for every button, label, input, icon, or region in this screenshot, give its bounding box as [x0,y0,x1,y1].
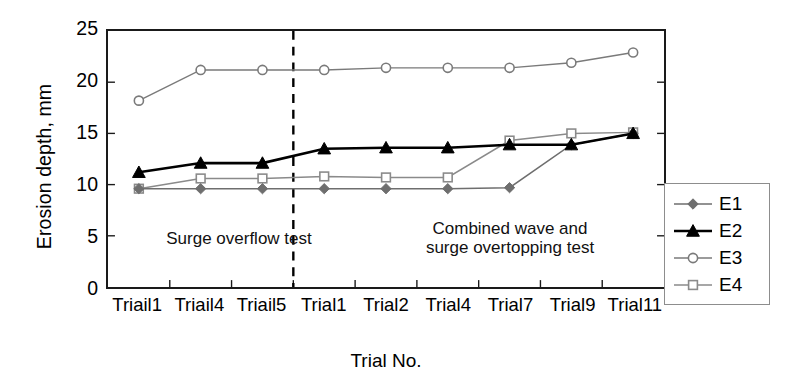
x-tick-label-1: Triail4 [168,296,230,326]
y-tick-label-20: 20 [54,71,98,91]
y-tick-label-10: 10 [54,175,98,195]
x-tick-label-7: Trial9 [542,296,604,326]
legend-marker-filled-diamond-icon [672,195,714,213]
x-tick-label-4: Trial2 [355,296,417,326]
legend-marker-open-circle-icon [672,249,714,267]
legend-label-e1: E1 [719,194,742,213]
y-tick-label-5: 5 [54,227,98,247]
x-tick-label-6: Trial7 [479,296,541,326]
legend-item-e3[interactable]: E3 [665,244,769,271]
y-tick-label-0: 0 [54,279,98,299]
legend-marker-open-square-icon [672,276,714,294]
x-tick-label-5: Trial4 [417,296,479,326]
x-tick-label-2: Triail5 [230,296,292,326]
x-tick-label-3: Trial1 [293,296,355,326]
legend-item-e1[interactable]: E1 [665,190,769,217]
legend-label-e2: E2 [719,221,742,240]
y-tick-label-15: 15 [54,123,98,143]
legend-label-e4: E4 [719,275,742,294]
annotation-surge-overflow-test: Surge overflow test [124,229,354,248]
legend-label-e3: E3 [719,248,742,267]
annotation-combined-wave-test: Combined wave and surge overtopping test [376,219,644,257]
y-axis-tick-labels: 2520151050 [46,0,98,392]
legend-marker-filled-triangle-icon [672,222,714,240]
chart-legend: E1E2E3E4 [664,183,770,305]
y-tick-label-25: 25 [54,19,98,39]
x-axis-tick-labels: Triail1Triail4Triail5Trial1Trial2Trial4T… [106,296,666,326]
legend-item-e2[interactable]: E2 [665,217,769,244]
x-tick-label-0: Triail1 [106,296,168,326]
legend-item-e4[interactable]: E4 [665,271,769,298]
x-tick-label-8: Trial11 [604,296,666,326]
x-axis-title: Trial No. [106,350,666,372]
plot-area: Surge overflow test Combined wave and su… [106,29,666,289]
erosion-depth-line-chart: Erosion depth, mm 2520151050 Surge overf… [0,0,794,392]
